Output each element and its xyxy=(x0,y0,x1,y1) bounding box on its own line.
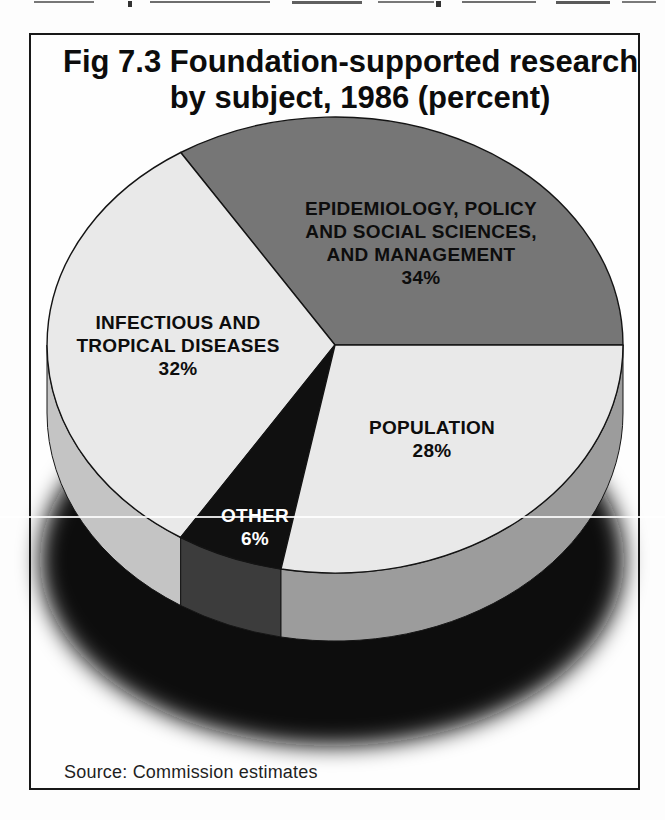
scanned-page: Fig 7.3 Foundation-supported research by… xyxy=(0,0,665,820)
slice-label-infectious: INFECTIOUS AND TROPICAL DISEASES 32% xyxy=(76,311,279,380)
slice-label-line: EPIDEMIOLOGY, POLICY xyxy=(305,197,537,220)
scan-line-artifact xyxy=(0,516,665,518)
slice-label-line: OTHER xyxy=(221,504,289,527)
slice-percent: 32% xyxy=(76,357,279,380)
slice-label-line: POPULATION xyxy=(369,416,495,439)
slice-percent: 6% xyxy=(221,527,289,550)
slice-label-line: AND MANAGEMENT xyxy=(305,243,537,266)
source-note: Source: Commission estimates xyxy=(64,762,318,783)
slice-label-population: POPULATION 28% xyxy=(369,416,495,462)
slice-label-other: OTHER 6% xyxy=(221,504,289,550)
slice-label-line: AND SOCIAL SCIENCES, xyxy=(305,220,537,243)
slice-label-line: INFECTIOUS AND xyxy=(76,311,279,334)
slice-label-epidemiology: EPIDEMIOLOGY, POLICY AND SOCIAL SCIENCES… xyxy=(305,197,537,289)
pie-chart xyxy=(0,0,665,820)
slice-label-line: TROPICAL DISEASES xyxy=(76,334,279,357)
slice-percent: 34% xyxy=(305,266,537,289)
slice-percent: 28% xyxy=(369,439,495,462)
